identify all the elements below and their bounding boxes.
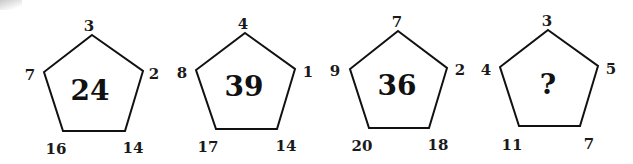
pentagon-3-top-value: 7 <box>392 13 402 31</box>
pentagon-2-center-value: 39 <box>225 70 264 103</box>
pentagon-3-center-value: 36 <box>378 69 417 102</box>
pentagon-4-bottom-left-value: 11 <box>502 136 523 154</box>
pentagon-1: 3 7 2 16 14 24 <box>25 17 159 158</box>
pentagon-4-top-value: 3 <box>542 12 552 30</box>
pentagon-1-bottom-left-value: 16 <box>46 140 67 158</box>
pentagon-3-bottom-left-value: 20 <box>352 137 373 155</box>
pentagon-3-left-value: 9 <box>330 62 340 80</box>
pentagon-3-right-value: 2 <box>455 61 465 79</box>
pentagon-1-right-value: 2 <box>149 65 159 83</box>
pentagon-2-left-value: 8 <box>177 64 187 82</box>
pentagon-2-top-value: 4 <box>238 15 248 33</box>
pentagon-4-right-value: 5 <box>606 60 616 78</box>
pentagon-1-left-value: 7 <box>25 66 35 84</box>
pentagon-4-center-question-mark: ? <box>540 68 556 101</box>
pentagon-1-center-value: 24 <box>71 74 110 107</box>
pentagon-1-top-value: 3 <box>84 17 94 35</box>
pentagon-3-bottom-right-value: 18 <box>428 136 449 154</box>
pentagon-4: 3 4 5 11 7 ? <box>481 12 616 154</box>
pentagon-2-right-value: 1 <box>303 63 313 81</box>
number-puzzle: 3 7 2 16 14 24 4 8 1 17 14 39 7 9 2 20 1… <box>0 0 633 164</box>
pentagon-2-bottom-left-value: 17 <box>198 138 219 156</box>
pentagon-2-bottom-right-value: 14 <box>276 137 297 155</box>
pentagon-2: 4 8 1 17 14 39 <box>177 15 313 156</box>
pentagon-3: 7 9 2 20 18 36 <box>330 13 465 155</box>
pentagon-1-bottom-right-value: 14 <box>123 139 144 157</box>
pentagon-4-bottom-right-value: 7 <box>584 135 594 153</box>
pentagon-puzzle-diagram: 3 7 2 16 14 24 4 8 1 17 14 39 7 9 2 20 1… <box>0 0 633 164</box>
pentagon-4-left-value: 4 <box>481 61 491 79</box>
